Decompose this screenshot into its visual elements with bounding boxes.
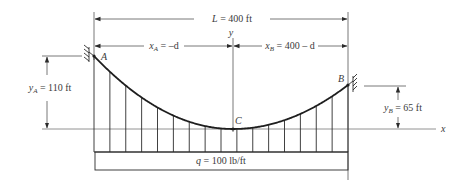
xB-dimension: xB = 400 – d <box>234 40 347 53</box>
xB-label: xB = 400 – d <box>264 40 314 53</box>
suspension-cable-diagram: L = 400 ft y xA = –d xB = 400 – d x q = <box>0 0 452 182</box>
support-B-icon <box>348 74 357 92</box>
point-C-label: C <box>235 115 242 126</box>
yA-label: yA = 110 ft <box>28 82 72 95</box>
hangers <box>94 56 348 152</box>
x-axis-label: x <box>440 123 446 134</box>
point-B-label: B <box>338 73 344 84</box>
point-B-marker <box>346 83 349 86</box>
yA-dimension: yA = 110 ft <box>28 56 82 128</box>
yB-label: yB = 65 ft <box>383 102 422 115</box>
xA-label: xA = –d <box>148 40 178 53</box>
point-A-label: A <box>100 51 108 62</box>
span-label: L = 400 ft <box>211 13 252 24</box>
distributed-load: q = 100 lb/ft <box>94 152 348 170</box>
cable-curve <box>94 56 348 129</box>
support-A-icon <box>84 45 94 62</box>
y-axis: y <box>228 27 234 132</box>
xA-dimension: xA = –d <box>95 40 232 53</box>
load-label: q = 100 lb/ft <box>196 155 246 166</box>
point-C-marker <box>231 127 234 130</box>
yB-dimension: yB = 65 ft <box>364 86 422 128</box>
y-axis-label: y <box>228 27 234 38</box>
span-dimension: L = 400 ft <box>95 13 347 24</box>
point-A-marker <box>92 54 95 57</box>
